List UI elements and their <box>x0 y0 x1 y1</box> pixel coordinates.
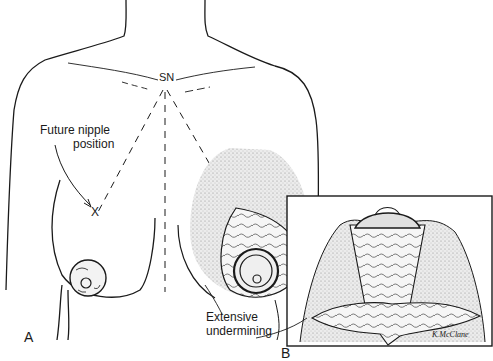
future-nipple-label-line1: Future nipple <box>40 123 110 137</box>
artist-signature: K.McClane <box>432 328 469 342</box>
sternal-notch-label: SN <box>159 70 174 84</box>
surgical-illustration <box>0 0 493 361</box>
areola-left <box>70 260 106 296</box>
future-nipple-label-line2: position <box>73 137 114 151</box>
panel-label-a: A <box>24 330 33 344</box>
pointer-arrow <box>55 145 91 207</box>
undermining-label-line1: Extensive <box>206 310 258 324</box>
undermining-label-line2: undermining <box>206 324 272 338</box>
panel-label-b: B <box>281 346 290 360</box>
panel-b-inset <box>256 196 492 346</box>
future-nipple-marker: X <box>91 205 99 219</box>
